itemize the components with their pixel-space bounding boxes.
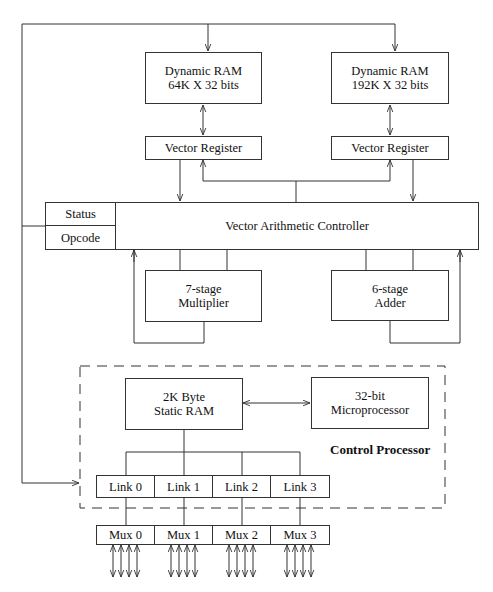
dram-right-line2: 192K X 32 bits (352, 78, 429, 92)
opcode-label: Opcode (61, 231, 100, 245)
link-3: Link 3 (271, 476, 329, 497)
dram-left-block: Dynamic RAM 64K X 32 bits (145, 52, 262, 104)
vector-register-left: Vector Register (145, 136, 262, 160)
dram-right-block: Dynamic RAM 192K X 32 bits (331, 52, 449, 104)
mux-1: Mux 1 (155, 526, 213, 544)
multiplier-line2: Multiplier (178, 296, 229, 310)
link-2-label: Link 2 (225, 480, 258, 494)
link-3-label: Link 3 (284, 480, 317, 494)
mux-1-label: Mux 1 (167, 528, 200, 542)
static-ram-line2: Static RAM (154, 404, 214, 418)
vector-register-right: Vector Register (331, 136, 449, 160)
dram-left-line2: 64K X 32 bits (168, 78, 239, 92)
link-1-label: Link 1 (167, 480, 200, 494)
microprocessor-line2: Microprocessor (331, 403, 409, 417)
microprocessor-line1: 32-bit (355, 389, 385, 403)
link-0-label: Link 0 (109, 480, 142, 494)
adder-block: 6-stage Adder (331, 270, 449, 321)
mux-0: Mux 0 (97, 526, 155, 544)
adder-line2: Adder (374, 296, 405, 310)
mux-0-label: Mux 0 (109, 528, 142, 542)
controller-label: Vector Arithmetic Controller (225, 219, 369, 233)
opcode-field: Opcode (46, 226, 116, 249)
mux-2-label: Mux 2 (225, 528, 258, 542)
static-ram-line1: 2K Byte (163, 390, 205, 404)
dram-right-line1: Dynamic RAM (351, 64, 428, 78)
vector-register-left-label: Vector Register (165, 141, 242, 155)
mux-io-arrows (113, 545, 311, 577)
link-1: Link 1 (155, 476, 213, 497)
multiplier-block: 7-stage Multiplier (145, 270, 262, 322)
static-ram-block: 2K Byte Static RAM (125, 378, 243, 430)
mux-3-label: Mux 3 (284, 528, 317, 542)
mux-row: Mux 0 Mux 1 Mux 2 Mux 3 (96, 525, 330, 545)
control-processor-label: Control Processor (330, 442, 430, 458)
microprocessor-block: 32-bit Microprocessor (311, 377, 429, 429)
link-0: Link 0 (97, 476, 155, 497)
mux-3: Mux 3 (271, 526, 329, 544)
mux-2: Mux 2 (213, 526, 271, 544)
status-field: Status (46, 203, 116, 226)
vector-register-right-label: Vector Register (351, 141, 428, 155)
link-2: Link 2 (213, 476, 271, 497)
controller-title: Vector Arithmetic Controller (116, 203, 478, 249)
multiplier-line1: 7-stage (185, 282, 221, 296)
vector-arithmetic-controller: Status Opcode Vector Arithmetic Controll… (45, 202, 479, 250)
dram-left-line1: Dynamic RAM (165, 64, 242, 78)
status-label: Status (65, 207, 96, 221)
controller-feedback-line (203, 181, 296, 202)
links-row: Link 0 Link 1 Link 2 Link 3 (96, 475, 330, 498)
adder-line1: 6-stage (372, 282, 408, 296)
